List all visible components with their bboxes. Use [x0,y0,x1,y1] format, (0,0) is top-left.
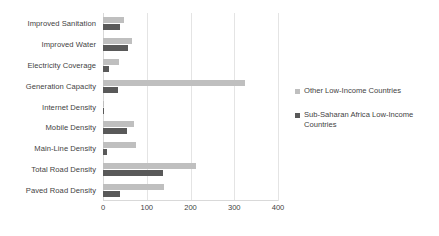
value-axis-ticks: 0100200300400 [103,203,278,219]
bar [103,59,119,65]
legend-swatch-icon [295,113,300,118]
bar [103,101,104,107]
category-label: Improved Water [0,34,100,55]
bar-group [103,34,278,55]
category-label: Electricity Coverage [0,55,100,76]
category-label: Mobile Density [0,117,100,138]
bar-group [103,138,278,159]
category-axis-labels: Improved SanitationImproved WaterElectri… [0,13,100,201]
legend-item-other: Other Low-Income Countries [295,86,437,96]
bar [103,184,164,190]
bar [103,121,134,127]
bar [103,38,132,44]
chart-screenshot: Improved SanitationImproved WaterElectri… [0,0,439,236]
bar [103,66,109,72]
category-label: Main-Line Density [0,138,100,159]
bar [103,108,104,114]
axis-tick-label: 200 [184,203,197,212]
legend-swatch-icon [295,89,300,94]
bar [103,149,107,155]
bar [103,142,136,148]
bar [103,45,128,51]
gridline [278,13,279,201]
axis-tick-label: 400 [272,203,285,212]
category-label: Improved Sanitation [0,13,100,34]
bar-group [103,55,278,76]
plot-area [103,13,278,201]
bar-group [103,117,278,138]
legend-label: Sub-Saharan Africa Low-Income Countries [304,110,437,130]
bar-group [103,97,278,118]
bar-group [103,180,278,201]
bar-group [103,13,278,34]
legend-label: Other Low-Income Countries [304,86,401,96]
axis-tick-label: 300 [228,203,241,212]
bar [103,128,127,134]
bar [103,80,245,86]
bar-group [103,159,278,180]
bar-chart: Improved SanitationImproved WaterElectri… [0,0,290,236]
category-label: Total Road Density [0,159,100,180]
category-label: Internet Density [0,97,100,118]
bar [103,24,120,30]
bar [103,87,118,93]
bar-group [103,76,278,97]
axis-tick-label: 0 [101,203,105,212]
bar [103,170,163,176]
bar-groups [103,13,278,201]
bar [103,191,120,197]
category-label: Generation Capacity [0,76,100,97]
legend-item-ssa: Sub-Saharan Africa Low-Income Countries [295,110,437,130]
chart-legend: Other Low-Income Countries Sub-Saharan A… [295,86,437,144]
bar [103,163,196,169]
axis-tick-label: 100 [140,203,153,212]
category-label: Paved Road Density [0,180,100,201]
bar [103,17,124,23]
